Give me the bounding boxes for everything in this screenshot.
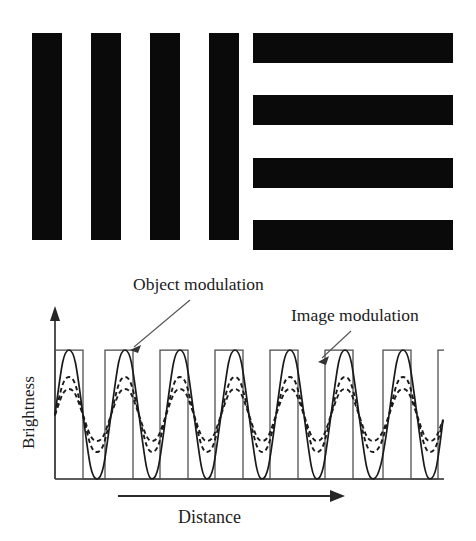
object-modulation-leader — [130, 300, 190, 353]
vertical-bar — [209, 33, 239, 240]
distance-arrow — [118, 490, 345, 502]
plot-axes — [50, 306, 444, 479]
horizontal-bar-group — [253, 33, 453, 250]
y-axis-label: Brightness — [20, 358, 37, 468]
bar-target-graphic — [0, 0, 476, 541]
object-modulation-label: Object modulation — [133, 276, 264, 294]
vertical-bar — [150, 33, 180, 240]
horizontal-bar — [253, 158, 453, 188]
image-modulation-label: Image modulation — [291, 307, 419, 325]
object-modulation-leader-line — [134, 300, 190, 347]
x-axis-label: Distance — [178, 508, 241, 526]
horizontal-bar — [253, 220, 453, 250]
vertical-bar — [91, 33, 121, 240]
horizontal-bar — [253, 95, 453, 125]
horizontal-bar — [253, 33, 453, 63]
image-modulation-leader — [318, 331, 351, 365]
y-axis-arrowhead — [50, 306, 60, 321]
vertical-bar-group — [32, 33, 239, 240]
distance-arrowhead — [330, 490, 345, 502]
image-modulation-leader-line — [322, 331, 351, 358]
figure-root: Object modulation Image modulation Brigh… — [0, 0, 476, 541]
vertical-bar — [32, 33, 62, 240]
